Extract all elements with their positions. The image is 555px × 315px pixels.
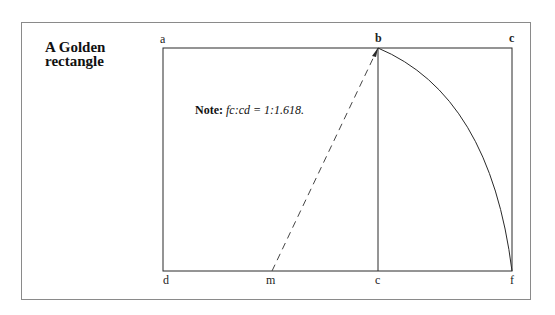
- note-formula: fc:cd = 1:1.618.: [226, 103, 304, 117]
- golden-rectangle-diagram: [0, 0, 555, 315]
- label-c-top: c: [509, 31, 514, 46]
- label-b: b: [375, 31, 382, 46]
- label-f: f: [510, 273, 514, 288]
- note-label: Note:: [195, 103, 223, 117]
- label-c-bottom: c: [375, 273, 380, 288]
- outer-rectangle: [163, 48, 512, 271]
- dashed-radius-line: [272, 48, 378, 271]
- arrowhead-icon: [372, 48, 378, 57]
- golden-arc: [378, 48, 512, 271]
- label-a: a: [160, 32, 165, 47]
- label-m: m: [266, 273, 275, 288]
- label-d: d: [163, 273, 169, 288]
- ratio-note: Note: fc:cd = 1:1.618.: [195, 103, 304, 118]
